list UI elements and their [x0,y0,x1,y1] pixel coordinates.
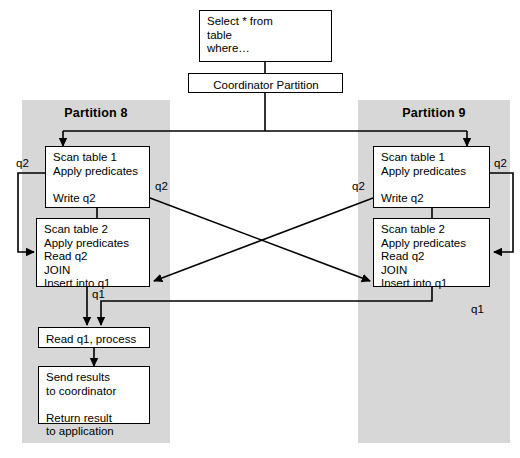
label-q2-left-cross: q2 [155,180,168,192]
query-box: Select * from table where… [199,10,332,62]
partition-8-send-results-box: Send results to coordinator Return resul… [38,366,150,424]
partition-9-scan-table-1-box: Scan table 1 Apply predicates Write q2 [373,146,490,208]
coordinator-partition-box: Coordinator Partition [188,73,343,93]
label-q2-right-cross: q2 [352,180,365,192]
partition-8-scan-table-2-box: Scan table 2 Apply predicates Read q2 JO… [36,218,150,287]
label-q1-left: q1 [92,288,105,300]
wire-cross-left-to-right-q2 [150,198,370,281]
partition-8-title: Partition 8 [22,106,170,120]
partition-8-scan-table-1-box: Scan table 1 Apply predicates Write q2 [45,146,150,208]
partition-9-scan-table-2-box: Scan table 2 Apply predicates Read q2 JO… [373,218,490,287]
wire-cross-right-to-left-q2 [154,198,373,281]
label-q2-right-loop: q2 [494,157,507,169]
partition-9-title: Partition 9 [358,106,510,120]
label-q1-right: q1 [471,303,484,315]
diagram-canvas: Select * from table where… Coordinator P… [0,0,520,458]
label-q2-left-loop: q2 [16,157,29,169]
partition-8-read-q1-process-box: Read q1, process [38,327,150,348]
